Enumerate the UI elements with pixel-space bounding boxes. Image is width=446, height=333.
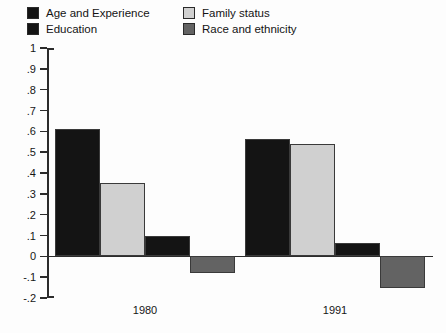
legend-swatch-icon: [27, 7, 39, 19]
y-axis-tick-label: .3: [27, 188, 36, 200]
legend-label: Family status: [202, 7, 270, 19]
bar: [55, 129, 100, 256]
y-axis-tick: [40, 276, 47, 278]
y-axis-tick: [40, 256, 47, 258]
y-axis-tick-label: .2: [27, 209, 36, 221]
y-axis-tick: [40, 172, 47, 174]
x-axis-group-label: 1991: [323, 304, 347, 316]
chart-legend: Age and ExperienceEducationFamily status…: [27, 6, 327, 38]
y-axis-tick-label: .5: [27, 146, 36, 158]
bar: [190, 256, 235, 273]
bar: [335, 243, 380, 257]
y-axis-tick-label: 0: [30, 250, 36, 262]
legend-label: Education: [46, 23, 97, 35]
y-axis-tick: [40, 235, 47, 237]
y-axis-tick: [40, 131, 47, 133]
y-axis-tick: [40, 193, 47, 195]
bar: [100, 183, 145, 256]
y-axis-tick: [40, 89, 47, 91]
plot-area: 1.9.8.7.6.5.4.3.2.10-.1-.2 19801991: [47, 48, 433, 298]
legend-entry: Age and Experience: [27, 6, 150, 20]
bar: [380, 256, 425, 287]
y-axis-tick-label: .6: [27, 125, 36, 137]
y-axis-top-serif: [47, 48, 54, 50]
legend-swatch-icon: [183, 7, 195, 19]
y-axis-tick: [40, 151, 47, 153]
bar: [245, 139, 290, 257]
y-axis-tick-label: .1: [27, 230, 36, 242]
bar-chart-figure: Age and ExperienceEducationFamily status…: [0, 0, 446, 333]
y-axis-tick: [40, 110, 47, 112]
y-axis-tick: [40, 297, 47, 299]
y-axis-tick-label: -.1: [23, 271, 36, 283]
y-axis-tick: [40, 47, 47, 49]
legend-label: Race and ethnicity: [202, 23, 297, 35]
y-axis-tick-label: .7: [27, 105, 36, 117]
legend-swatch-icon: [183, 23, 195, 35]
legend-swatch-icon: [27, 23, 39, 35]
y-axis-tick-label: 1: [30, 42, 36, 54]
bar: [290, 144, 335, 257]
x-axis-group-label: 1980: [133, 304, 157, 316]
y-axis-tick: [40, 214, 47, 216]
legend-entry: Education: [27, 22, 97, 36]
legend-label: Age and Experience: [46, 7, 150, 19]
y-axis-tick: [40, 68, 47, 70]
y-axis-tick-label: .8: [27, 84, 36, 96]
legend-entry: Race and ethnicity: [183, 22, 297, 36]
bar: [145, 236, 190, 257]
y-axis-spine: [47, 48, 49, 298]
y-axis-tick-label: -.2: [23, 292, 36, 304]
y-axis-tick-label: .4: [27, 167, 36, 179]
y-axis-bottom-serif: [47, 296, 54, 298]
y-axis-tick-label: .9: [27, 63, 36, 75]
legend-entry: Family status: [183, 6, 270, 20]
